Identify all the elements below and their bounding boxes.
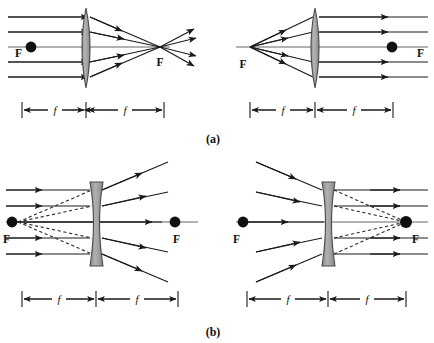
figure-background [0, 0, 434, 343]
caption-b: (b) [206, 325, 221, 339]
focal-label-right: F [417, 47, 424, 59]
focal-label-right: F [412, 233, 419, 245]
virtual-focal-point-dot-right [400, 216, 412, 228]
virtual-focal-point-dot-left [7, 217, 18, 228]
focal-point-dot-right [170, 217, 181, 228]
focal-label-right: F [173, 233, 180, 245]
focal-label-right: F [156, 56, 163, 68]
focal-label-left: F [233, 233, 240, 245]
focal-label-left: F [3, 233, 10, 245]
caption-a: (a) [206, 132, 220, 146]
focal-point-dot-right [387, 42, 398, 53]
lens-ray-diagram-figure: F F f f [0, 0, 434, 343]
focal-label-left: F [15, 47, 22, 59]
focal-label-left: F [239, 58, 246, 70]
focal-point-dot-left [238, 217, 249, 228]
focal-point-dot-left [26, 42, 37, 53]
